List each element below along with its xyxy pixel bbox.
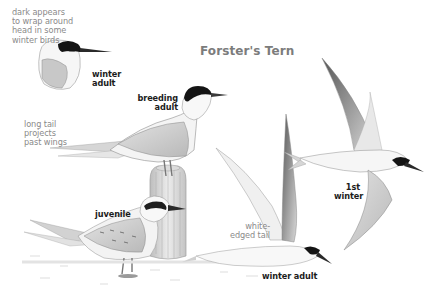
breeding-adult-label: breeding adult	[132, 94, 178, 112]
first-winter-flying-bird	[284, 58, 424, 250]
long-tail-note: long tail projects past wings	[24, 120, 67, 148]
first-winter-label: 1st winter	[334, 183, 360, 201]
winter-adult-flying-label: winter adult	[262, 272, 317, 281]
juvenile-label: juvenile	[95, 210, 131, 219]
page-title: Forster's Tern	[200, 44, 294, 58]
forsters-tern-plate: dark appears to wrap around head in some…	[0, 0, 438, 306]
white-edged-tail-note: white- edged tail	[218, 222, 270, 240]
winter-adult-flying-bird	[182, 114, 332, 266]
head-wrap-note: dark appears to wrap around head in some…	[12, 8, 73, 45]
winter-adult-head-label: winter adult	[92, 70, 121, 88]
